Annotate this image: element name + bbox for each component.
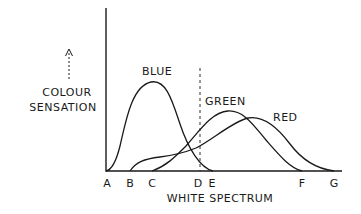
tick-a: A <box>103 177 111 190</box>
tick-c: C <box>148 177 156 190</box>
tick-g: G <box>330 177 339 190</box>
tick-d: D <box>194 177 202 190</box>
axes <box>106 8 342 171</box>
x-axis-label: WHITE SPECTRUM <box>167 192 274 205</box>
tick-f: F <box>299 177 305 190</box>
y-axis-arrow-icon <box>66 49 73 79</box>
red-curve-label: RED <box>273 111 298 124</box>
blue-curve-label: BLUE <box>142 65 172 78</box>
y-axis-label-line1: COLOUR <box>42 86 91 99</box>
colour-sensation-diagram: COLOUR SENSATION BLUE GREEN RED A B C D … <box>0 0 361 214</box>
tick-b: B <box>126 177 134 190</box>
red-curve <box>130 118 334 171</box>
tick-e: E <box>209 177 216 190</box>
y-axis-label-line2: SENSATION <box>29 101 96 114</box>
green-curve-label: GREEN <box>205 95 246 108</box>
